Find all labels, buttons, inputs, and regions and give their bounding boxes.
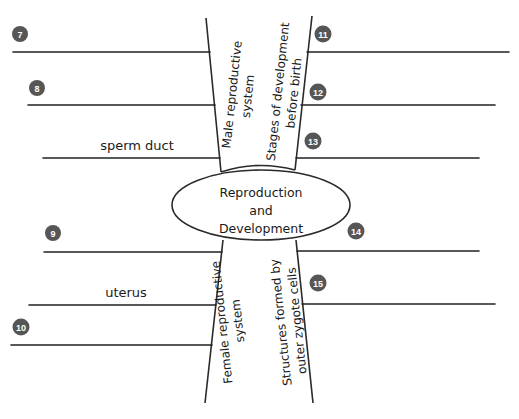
concept-map: Reproduction and Development Male reprod… xyxy=(0,0,519,419)
branch-female-line2: system xyxy=(229,298,247,343)
center-title-line3: Development xyxy=(219,221,303,236)
answer-text-sperm-duct: sperm duct xyxy=(100,138,174,153)
branch-label-female: Female reproductive system xyxy=(209,259,252,385)
number-badge-15-text: 15 xyxy=(313,279,323,289)
slot-12[interactable]: 12 xyxy=(301,84,495,106)
upper-left-arm-line xyxy=(206,18,221,172)
number-badge-10-text: 10 xyxy=(16,323,26,333)
branch-male-line2: system xyxy=(239,74,257,119)
center-node: Reproduction and Development xyxy=(172,170,350,240)
center-title-line1: Reproduction xyxy=(220,185,303,200)
number-badge-12-text: 12 xyxy=(313,88,323,98)
number-badge-8-text: 8 xyxy=(34,84,39,94)
slot-8[interactable]: 8 xyxy=(28,80,215,105)
slot-10[interactable]: 10 xyxy=(11,319,212,346)
slot-sperm-duct[interactable]: sperm duct xyxy=(43,138,220,158)
center-title-line2: and xyxy=(249,203,273,218)
number-badge-14-text: 14 xyxy=(351,227,361,237)
number-badge-13-text: 13 xyxy=(308,137,318,147)
number-badge-11-text: 11 xyxy=(318,30,328,40)
branch-label-stages: Stages of development before birth xyxy=(264,21,308,163)
number-badge-9-text: 9 xyxy=(50,229,55,239)
slot-13[interactable]: 13 xyxy=(296,133,479,159)
slot-11[interactable]: 11 xyxy=(307,26,509,53)
number-badge-7-text: 7 xyxy=(17,30,22,40)
answer-text-uterus: uterus xyxy=(105,285,147,300)
concept-map-svg: Reproduction and Development Male reprod… xyxy=(0,0,519,419)
slot-uterus[interactable]: uterus xyxy=(29,285,216,305)
slot-7[interactable]: 7 xyxy=(12,26,210,52)
slot-14[interactable]: 14 xyxy=(297,223,479,252)
slot-15[interactable]: 15 xyxy=(302,275,495,305)
branch-label-male: Male reproductive system xyxy=(219,40,260,151)
